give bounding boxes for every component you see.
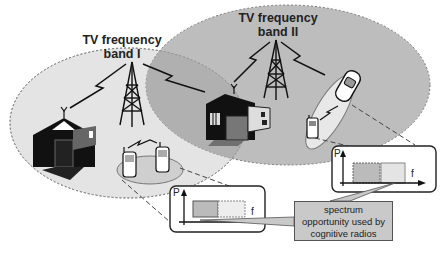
handheld-radio-icon (156, 142, 169, 172)
right-plot-y-label: P (334, 148, 341, 159)
left-plot-y-label: P (173, 187, 180, 198)
handheld-radio-icon (123, 147, 136, 177)
spectrum-plot-right (332, 146, 436, 192)
band2-label: TV frequency band II (218, 11, 338, 39)
band1-title-line2: band I (62, 47, 182, 61)
band2-title-line2: band II (218, 25, 338, 39)
band2-title-line1: TV frequency (218, 11, 338, 25)
band1-label: TV frequency band I (62, 33, 182, 61)
band1-title-line1: TV frequency (62, 33, 182, 47)
callout-line1: spectrum (295, 204, 392, 216)
callout-line3: cognitive radios (295, 228, 392, 240)
left-plot-x-label: f (251, 206, 254, 217)
handheld-radio-icon (307, 115, 318, 138)
callout-line2: opportunity used by (295, 216, 392, 228)
spectrum-opportunity-callout: spectrum opportunity used by cognitive r… (294, 201, 393, 241)
right-plot-x-label: f (411, 168, 414, 179)
